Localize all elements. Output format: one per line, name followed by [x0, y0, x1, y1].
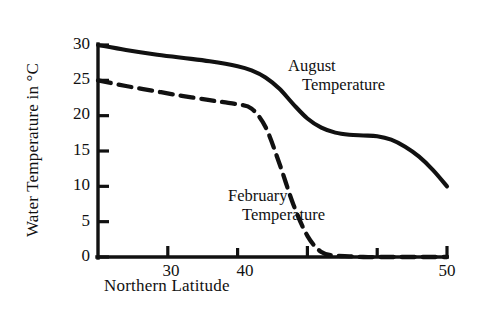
- february-annotation-line1: February: [228, 186, 288, 205]
- august-annotation-line2: Temperature: [288, 75, 385, 94]
- y-tick-label-0: 0: [56, 246, 90, 266]
- y-tick-label-20: 20: [56, 104, 90, 124]
- series-group: [98, 45, 447, 257]
- august-annotation-line1: August: [288, 56, 336, 75]
- y-tick-label-25: 25: [56, 69, 90, 89]
- y-tick-label-10: 10: [56, 175, 90, 195]
- y-tick-label-5: 5: [56, 211, 90, 231]
- x-tick-label-40: 40: [225, 261, 265, 281]
- february-temperature-curve: [98, 80, 447, 257]
- february-annotation: February Temperature: [228, 186, 325, 224]
- august-temperature-curve: [98, 45, 447, 186]
- february-annotation-line2: Temperature: [228, 205, 325, 224]
- chart-figure: Water Temperature in °C Northern Latitud…: [0, 0, 478, 321]
- axes-group: [97, 44, 447, 258]
- x-tick-label-50: 50: [427, 261, 467, 281]
- y-axis-title: Water Temperature in °C: [23, 25, 43, 275]
- y-tick-label-15: 15: [56, 140, 90, 160]
- y-tick-label-30: 30: [56, 34, 90, 54]
- x-tick-label-30: 30: [151, 261, 191, 281]
- august-annotation: August Temperature: [288, 56, 385, 94]
